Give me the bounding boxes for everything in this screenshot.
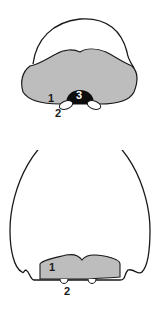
bottom-figure: 1 2 (0, 150, 165, 311)
top-figure: 1 2 3 (0, 0, 165, 150)
bottom-label-1: 1 (49, 261, 55, 273)
top-label-1: 1 (48, 92, 54, 104)
top-label-2: 2 (55, 107, 61, 119)
bottom-figure-drawing: 1 2 (0, 150, 165, 311)
bottom-label-2: 2 (64, 285, 70, 297)
top-label-3: 3 (76, 89, 82, 101)
bottom-right-lobe (88, 279, 96, 284)
top-figure-drawing: 1 2 3 (0, 0, 165, 150)
bottom-left-lobe (60, 279, 68, 284)
